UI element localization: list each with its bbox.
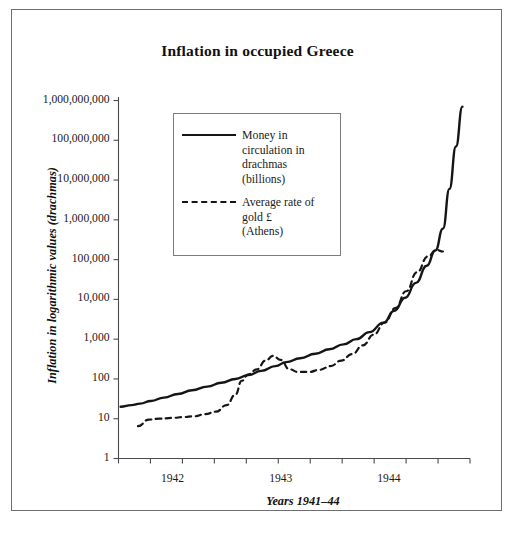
y-axis-ticks [114,101,119,459]
x-axis-ticks [119,459,471,464]
legend-dashed-line-icon [182,195,236,209]
chart-legend: Money in circulation in drachmas (billio… [173,113,341,256]
legend-entry-gold-rate: Average rate of gold £ (Athens) [182,195,334,239]
legend-money-line-1: Money in [242,128,288,142]
legend-money-line-2: circulation in [242,143,305,157]
y-tick-label: 10 [0,411,110,424]
legend-entry-money-in-circulation: Money in circulation in drachmas (billio… [182,128,334,186]
figure: Inflation in occupied Greece Inflation i… [0,0,515,542]
y-tick-label: 10,000 [0,291,110,304]
y-tick-label: 100,000,000 [0,132,110,145]
x-tick-label: 1944 [359,472,419,485]
y-tick-label: 1,000,000 [0,212,110,225]
legend-money-line-4: (billions) [242,172,285,186]
legend-money-line-3: drachmas [242,157,287,171]
x-tick-label: 1942 [143,472,203,485]
legend-solid-line-icon [182,128,236,142]
legend-label-gold-rate: Average rate of gold £ (Athens) [242,195,314,239]
series-line-gold-rate [138,250,443,426]
legend-gold-line-2: gold £ [242,210,272,224]
y-tick-label: 1,000 [0,331,110,344]
legend-gold-line-1: Average rate of [242,195,314,209]
y-tick-label: 10,000,000 [0,172,110,185]
x-tick-label: 1943 [251,472,311,485]
y-tick-label: 100,000 [0,252,110,265]
legend-gold-line-3: (Athens) [242,224,283,238]
y-tick-label: 100 [0,371,110,384]
y-tick-label: 1,000,000,000 [0,93,110,106]
legend-label-money-in-circulation: Money in circulation in drachmas (billio… [242,128,305,186]
y-tick-label: 1 [0,451,110,464]
